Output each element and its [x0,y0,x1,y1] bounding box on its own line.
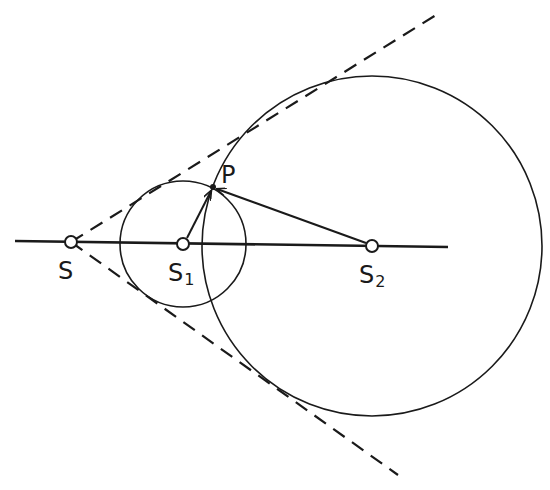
point-s-marker [65,236,77,248]
point-s1-marker [177,238,189,250]
label-s: S [58,257,73,285]
arrow-s1-to-p [187,191,211,238]
label-s1: S1 [168,259,194,289]
lower-tangent-line [71,242,398,475]
geometry-diagram: S S1 S2 P [0,0,550,490]
label-s2-main: S [359,261,374,289]
label-s1-main: S [168,259,183,287]
label-s2-sub: 2 [375,272,385,291]
point-s2-marker [366,240,378,252]
axis-line [15,241,448,247]
label-p: P [221,161,235,189]
point-p-dot [210,184,216,190]
label-s1-sub: 1 [184,270,194,289]
upper-tangent-line [71,15,436,242]
label-s2: S2 [359,261,385,291]
